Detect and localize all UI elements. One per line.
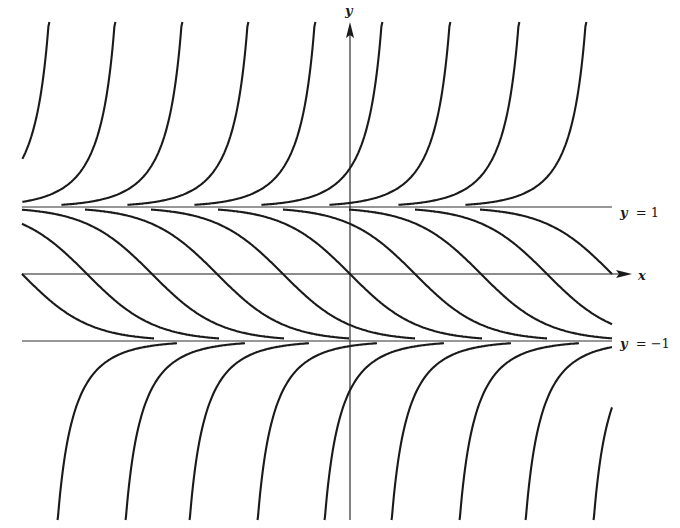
x-axis-label: x [637, 268, 646, 283]
upper-solution-curve [22, 22, 115, 202]
upper-solution-curve [194, 22, 315, 205]
label-y-equals-neg-1: y = −1 [619, 336, 670, 351]
solution-curves [22, 22, 612, 520]
label-var: y [619, 336, 629, 351]
upper-solution-curve [398, 22, 519, 205]
upper-solution-curve [22, 22, 49, 159]
lower-solution-curve [190, 343, 310, 520]
middle-solution-curve [480, 210, 612, 274]
middle-solution-curve [22, 224, 219, 339]
solution-curves-diagram: y x y = 1 y = −1 [0, 0, 680, 528]
lower-solution-curve [258, 343, 378, 520]
label-value: = 1 [636, 205, 659, 220]
upper-solution-curve [465, 22, 586, 205]
lower-solution-curve [526, 347, 613, 520]
lower-solution-curve [594, 407, 613, 520]
label-value: = −1 [636, 336, 670, 351]
lower-solution-curve [325, 343, 445, 520]
y-axis-label: y [344, 3, 354, 18]
upper-solution-curve [127, 22, 248, 205]
upper-solution-curve [329, 22, 450, 205]
axes [22, 22, 632, 520]
middle-solution-curve [22, 274, 154, 338]
lower-solution-curve [58, 343, 178, 520]
label-y-equals-1: y = 1 [619, 205, 659, 220]
upper-solution-curve [61, 22, 182, 205]
lower-solution-curve [460, 343, 580, 520]
upper-solution-curve [261, 22, 382, 205]
middle-solution-curve [415, 210, 612, 325]
lower-solution-curve [126, 343, 246, 520]
label-var: y [619, 205, 629, 220]
lower-solution-curve [392, 343, 512, 520]
